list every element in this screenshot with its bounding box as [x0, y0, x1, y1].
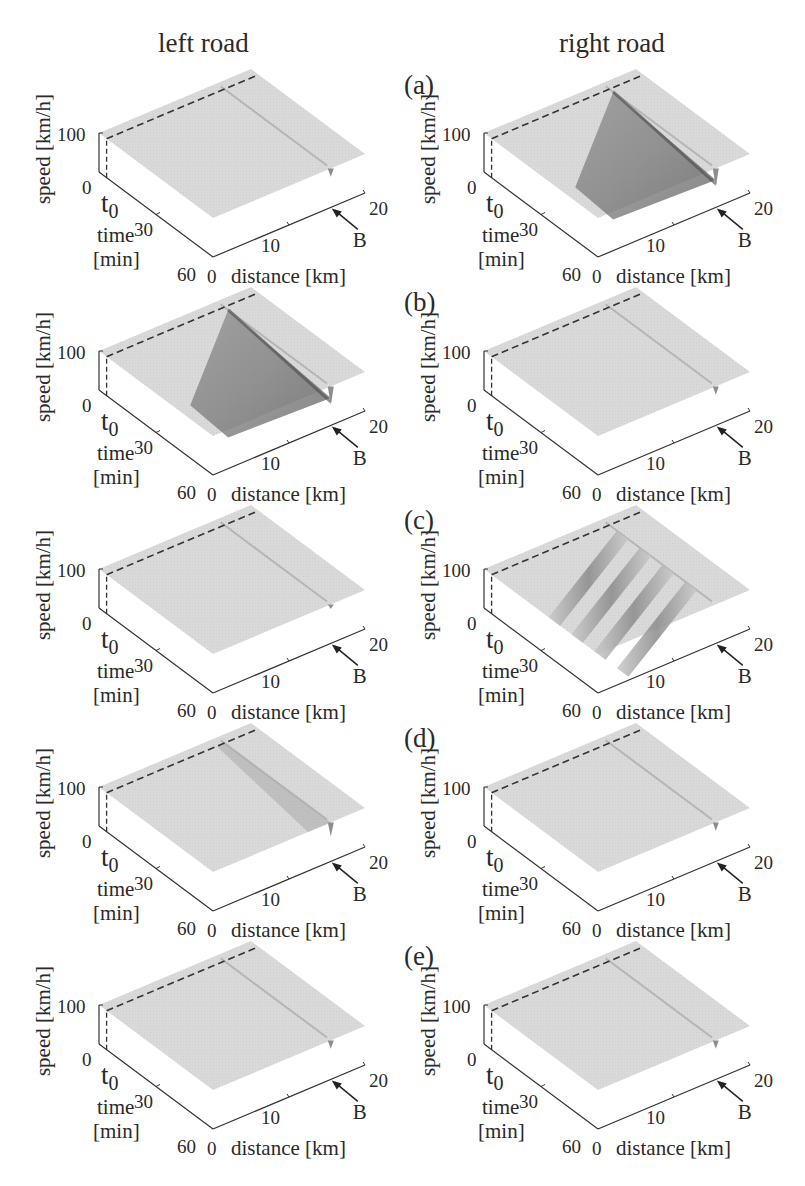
t0-label-subscript: 0	[494, 636, 504, 658]
panel-c-right: 1000306001020t0time[min]distance [km]spe…	[416, 505, 773, 724]
bottleneck-arrow-icon	[332, 862, 342, 871]
distance-tick	[363, 844, 365, 847]
speed-tick-label-100: 100	[442, 124, 471, 145]
time-tick-label-30: 30	[519, 873, 538, 894]
time-tick	[156, 649, 160, 651]
bottleneck-label: B	[353, 664, 367, 688]
bottleneck-label: B	[738, 446, 752, 470]
speed-tick-label-0: 0	[467, 831, 477, 852]
speed-axis-label: speed [km/h]	[416, 312, 440, 422]
distance-axis-label: distance [km]	[616, 264, 731, 288]
time-axis-label: time	[482, 659, 519, 683]
time-tick	[541, 649, 545, 651]
t0-label: t0	[486, 1060, 504, 1094]
time-tick-label-60: 60	[177, 482, 196, 503]
speed-dip-at-bottleneck	[328, 168, 334, 176]
speed-surface	[484, 723, 750, 872]
distance-tick-label-0: 0	[207, 920, 217, 941]
distance-axis-label: distance [km]	[616, 1136, 731, 1160]
speed-axis-label: speed [km/h]	[416, 966, 440, 1076]
time-axis-label-unit: [min]	[478, 465, 525, 489]
time-tick-label-30: 30	[134, 873, 153, 894]
distance-tick-label-20: 20	[369, 198, 388, 219]
time-axis-label-unit: [min]	[478, 247, 525, 271]
t0-label-subscript: 0	[109, 200, 119, 222]
speed-dip-at-bottleneck	[328, 822, 334, 836]
speed-axis-label: speed [km/h]	[31, 94, 55, 204]
distance-tick	[363, 626, 365, 629]
speed-axis-label: speed [km/h]	[31, 966, 55, 1076]
bottleneck-arrow-icon	[332, 208, 342, 217]
t0-label-subscript: 0	[494, 854, 504, 876]
t0-label: t0	[101, 1060, 119, 1094]
distance-axis-label: distance [km]	[231, 700, 346, 724]
time-tick	[156, 431, 160, 433]
speed-dip-at-bottleneck	[328, 1040, 334, 1048]
time-tick-label-60: 60	[562, 482, 581, 503]
time-tick-label-30: 30	[134, 437, 153, 458]
time-axis-label: time	[97, 223, 134, 247]
time-tick-label-30: 30	[519, 437, 538, 458]
distance-tick	[672, 658, 674, 661]
time-axis-label-unit: [min]	[478, 1119, 525, 1143]
speed-tick-label-0: 0	[467, 613, 477, 634]
figure-canvas: 1000306001020t0time[min]distance [km]spe…	[0, 0, 805, 1186]
time-tick-label-60: 60	[562, 1136, 581, 1157]
t0-label-subscript: 0	[494, 418, 504, 440]
panel-b-right: 1000306001020t0time[min]distance [km]spe…	[416, 287, 773, 506]
speed-tick-label-100: 100	[57, 560, 86, 581]
time-axis-label: time	[482, 441, 519, 465]
distance-tick-label-0: 0	[207, 266, 217, 287]
distance-tick-label-20: 20	[754, 1070, 773, 1091]
speed-axis-label: speed [km/h]	[416, 748, 440, 858]
speed-tick-label-100: 100	[442, 342, 471, 363]
bottleneck-label: B	[738, 664, 752, 688]
speed-axis-label: speed [km/h]	[416, 94, 440, 204]
t0-label: t0	[101, 842, 119, 876]
speed-surface	[99, 505, 365, 654]
bottleneck-label: B	[353, 228, 367, 252]
speed-tick-label-0: 0	[82, 613, 92, 634]
time-axis-label: time	[97, 441, 134, 465]
distance-tick-label-10: 10	[646, 889, 665, 910]
t0-label: t0	[486, 188, 504, 222]
bottleneck-arrow-icon	[332, 644, 342, 653]
speed-tick-label-100: 100	[442, 778, 471, 799]
time-tick	[541, 213, 545, 215]
time-tick	[541, 431, 545, 433]
t0-label: t0	[486, 406, 504, 440]
distance-tick-label-10: 10	[261, 235, 280, 256]
t0-label-subscript: 0	[494, 200, 504, 222]
distance-axis-label: distance [km]	[616, 700, 731, 724]
distance-tick	[287, 440, 289, 443]
distance-axis-label: distance [km]	[616, 482, 731, 506]
bottleneck-label: B	[738, 882, 752, 906]
speed-tick-label-0: 0	[467, 395, 477, 416]
distance-tick-label-20: 20	[754, 416, 773, 437]
speed-dip-at-bottleneck	[328, 604, 334, 609]
speed-tick-label-100: 100	[57, 778, 86, 799]
speed-tick-label-100: 100	[442, 560, 471, 581]
t0-label-subscript: 0	[494, 1072, 504, 1094]
speed-axis-label: speed [km/h]	[31, 312, 55, 422]
speed-tick-label-100: 100	[57, 342, 86, 363]
speed-tick-label-0: 0	[467, 177, 477, 198]
distance-tick-label-20: 20	[369, 1070, 388, 1091]
time-tick	[541, 1085, 545, 1087]
time-tick-label-30: 30	[134, 1091, 153, 1112]
distance-tick-label-10: 10	[261, 889, 280, 910]
t0-label: t0	[486, 624, 504, 658]
distance-tick	[363, 1062, 365, 1065]
speed-axis-label: speed [km/h]	[31, 748, 55, 858]
t0-label: t0	[101, 406, 119, 440]
speed-tick-label-0: 0	[82, 1049, 92, 1070]
panel-c-left: 1000306001020t0time[min]distance [km]spe…	[31, 505, 388, 724]
distance-tick-label-0: 0	[207, 1138, 217, 1159]
distance-tick	[672, 222, 674, 225]
bottleneck-label: B	[353, 882, 367, 906]
time-axis-label: time	[482, 877, 519, 901]
time-axis-label-unit: [min]	[93, 465, 140, 489]
distance-tick-label-10: 10	[646, 235, 665, 256]
distance-tick	[748, 626, 750, 629]
panel-d-right: 1000306001020t0time[min]distance [km]spe…	[416, 723, 773, 942]
